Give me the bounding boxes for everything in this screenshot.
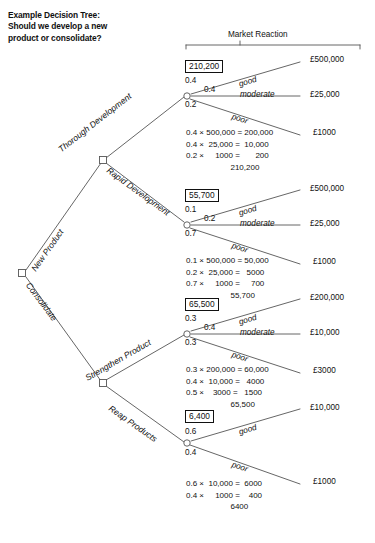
calc-reap-line-1: 0.6 × 10,000 = 6000: [186, 478, 262, 490]
payoff-thorough-good: £500,000: [310, 56, 344, 64]
calc-thorough-line-3: 0.2 × 1000 = 200: [186, 150, 269, 162]
ev-box-reap-products: 6,400: [185, 410, 214, 423]
calc-strengthen-line-1: 0.3 × 200,000 = 60,000: [186, 364, 269, 376]
payoff-thorough-poor: £1000: [313, 129, 336, 137]
payoff-reap-good: £10,000: [310, 404, 340, 412]
payoff-rapid-moderate: £25,000: [310, 220, 340, 228]
calc-thorough-line-1: 0.4 × 500,000 = 200,000: [186, 127, 273, 139]
payoff-strengthen-moderate: £10,000: [310, 329, 340, 337]
outcome-label-strengthen-moderate: moderate: [240, 329, 275, 337]
calc-thorough-line-2: 0.4 × 25,000 = 10,000: [186, 139, 269, 151]
prob-thorough-poor: 0.2: [185, 101, 196, 109]
chance-node-thorough-development: [184, 93, 190, 99]
consolidate-decision-node: [100, 380, 107, 387]
prob-strengthen-good: 0.3: [185, 315, 196, 323]
prob-reap-good: 0.6: [185, 428, 196, 436]
prob-strengthen-moderate: 0.4: [204, 324, 215, 332]
calc-rapid-line-1: 0.1 × 500,000 = 50,000: [186, 255, 269, 267]
calc-thorough-total: 210,200: [186, 162, 259, 174]
payoff-reap-poor: £1000: [313, 478, 336, 486]
ev-box-rapid-development: 55,700: [185, 189, 219, 202]
outcome-label-rapid-moderate: moderate: [240, 220, 275, 228]
outcome-label-thorough-moderate: moderate: [240, 91, 275, 99]
prob-reap-poor: 0.4: [185, 449, 196, 457]
prob-thorough-moderate: 0.4: [204, 86, 215, 94]
calc-strengthen-line-3: 0.5 × 3000 = 1500: [186, 387, 262, 399]
payoff-strengthen-good: £200,000: [310, 294, 344, 302]
calc-reap-line-2: 0.4 × 1000 = 400: [186, 490, 262, 502]
calc-rapid-line-3: 0.7 × 1000 = 700: [186, 278, 264, 290]
page-title: Example Decision Tree: Should we develop…: [8, 10, 107, 44]
chance-node-reap-products: [184, 440, 190, 446]
calc-strengthen-total: 65,500: [186, 399, 255, 411]
calc-strengthen-line-2: 0.4 × 10,000 = 4000: [186, 376, 264, 388]
ev-box-thorough-development: 210,200: [185, 60, 223, 73]
payoff-rapid-poor: £1000: [313, 258, 336, 266]
ev-box-strengthen-product: 65,500: [185, 298, 219, 311]
payoff-thorough-moderate: £25,000: [310, 91, 340, 99]
calc-rapid-line-2: 0.2 × 25,000 = 5000: [186, 267, 264, 279]
root-decision-node: [19, 270, 26, 277]
new-product-decision-node: [100, 157, 107, 164]
prob-thorough-good: 0.4: [185, 77, 196, 85]
decision-tree-figure: Example Decision Tree: Should we develop…: [0, 0, 375, 543]
payoff-strengthen-poor: £3000: [313, 367, 336, 375]
payoff-rapid-good: £500,000: [310, 185, 344, 193]
prob-rapid-poor: 0.7: [185, 230, 196, 238]
calc-reap-total: 6400: [186, 501, 248, 513]
chance-node-rapid-development: [184, 222, 190, 228]
chance-node-strengthen-product: [184, 331, 190, 337]
prob-strengthen-poor: 0.3: [185, 339, 196, 347]
prob-rapid-moderate: 0.2: [204, 215, 215, 223]
prob-rapid-good: 0.1: [185, 206, 196, 214]
column-header-market-reaction: Market Reaction: [228, 31, 288, 39]
